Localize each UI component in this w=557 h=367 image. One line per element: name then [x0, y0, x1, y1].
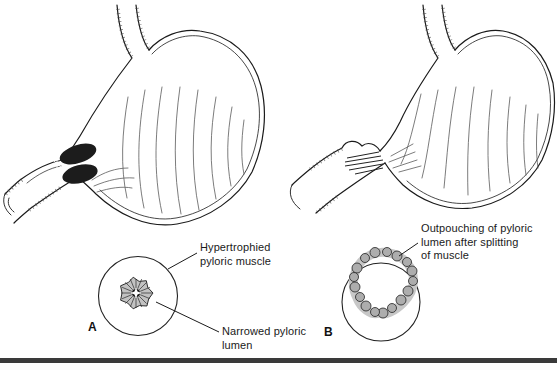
label-line: pyloric muscle: [200, 255, 310, 269]
leader-narrowed: [156, 302, 219, 332]
leader-lines: [0, 0, 557, 367]
label-line: lumen: [222, 339, 332, 353]
label-line: lumen after splitting: [421, 236, 551, 250]
leader-hypertrophied: [168, 253, 197, 269]
leader-outpouching: [399, 243, 418, 256]
panel-letter-b: B: [324, 325, 333, 339]
figure-page: Hypertrophied pyloric muscle Narrowed py…: [0, 0, 557, 367]
label-line: Narrowed pyloric: [222, 325, 332, 339]
narrowed-lumen-label: Narrowed pyloric lumen: [222, 325, 332, 352]
page-edge-bar: [0, 358, 557, 363]
outpouching-label: Outpouching of pyloric lumen after split…: [421, 222, 551, 263]
label-line: Outpouching of pyloric: [421, 222, 551, 236]
label-line: Hypertrophied: [200, 241, 310, 255]
panel-letter-a: A: [88, 320, 97, 334]
hypertrophied-muscle-label: Hypertrophied pyloric muscle: [200, 241, 310, 268]
label-line: of muscle: [421, 249, 551, 263]
